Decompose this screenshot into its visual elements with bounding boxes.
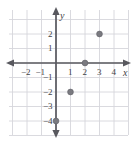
y-axis-arrow-up [52,7,59,15]
y-axis-label: y [60,11,64,21]
data-point [68,89,74,95]
x-tick-label: 3 [97,68,102,77]
y-tick-label: −2 [43,88,53,97]
x-axis-arrow-right [123,59,131,66]
data-point [97,31,103,37]
x-axis-label: x [123,68,127,78]
data-point [82,60,88,66]
x-tick-label: 4 [112,68,117,77]
y-tick-label: 2 [48,30,53,39]
x-tick-label: 2 [83,68,88,77]
y-tick-label: −1 [43,73,53,82]
y-tick-label: 1 [48,44,53,53]
x-axis-arrow-left [6,59,14,66]
data-point [53,118,59,124]
y-tick-label: −4 [43,117,53,126]
coordinate-plane-figure: −2−1123421−1−2−3−4xy [0,0,136,147]
x-tick-label: −2 [21,68,31,77]
y-axis-arrow-down [52,130,59,138]
x-tick-label: 1 [68,68,73,77]
y-tick-label: −3 [43,102,53,111]
